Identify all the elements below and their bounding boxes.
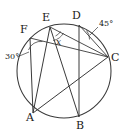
vertex-label-C: C (111, 52, 119, 63)
angle-label-x: x (56, 38, 61, 47)
chord-F-A (30, 38, 33, 113)
chord-F-C (30, 38, 108, 57)
vertex-label-A: A (26, 112, 34, 123)
vertex-label-E: E (42, 12, 50, 23)
leader-line-45 (90, 27, 98, 35)
vertex-label-F: F (20, 24, 28, 35)
angle-label-45: 45° (99, 20, 113, 28)
angle-arc-E-x (56, 32, 61, 37)
chord-E-A (33, 27, 50, 113)
vertex-label-D: D (72, 10, 81, 21)
chord-D-C (79, 25, 108, 57)
circle-geometry-figure: F E D C A B 30° 45° x (0, 0, 128, 135)
angle-label-30: 30° (5, 53, 19, 61)
vertex-label-B: B (76, 120, 84, 131)
